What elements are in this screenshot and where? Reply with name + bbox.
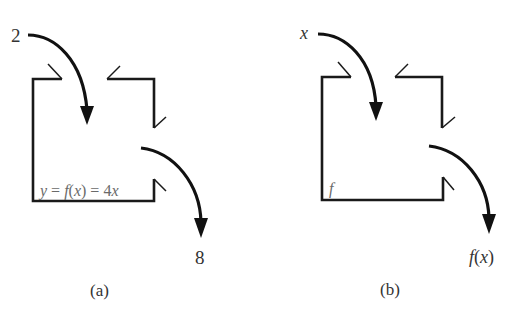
input-arrow-b bbox=[318, 34, 376, 106]
output-value-a: 8 bbox=[195, 247, 205, 268]
output-arrow-b bbox=[429, 146, 489, 218]
machine-box-a-notch-bottom-right bbox=[154, 179, 166, 191]
machine-box-a-right bbox=[107, 79, 154, 128]
output-arrow-b-head bbox=[482, 214, 496, 234]
machine-box-b-notch-top-right bbox=[395, 64, 408, 77]
caption-b: (b) bbox=[380, 280, 400, 299]
output-arrow-a-head bbox=[194, 218, 208, 238]
formula-eq1: = bbox=[47, 182, 64, 199]
output-rparen: ) bbox=[488, 247, 494, 268]
machine-formula-a: y = f(x) = 4x bbox=[38, 182, 119, 200]
machine-box-a-notch-top-left bbox=[48, 64, 62, 79]
machine-box-b-right bbox=[395, 77, 442, 128]
machine-box-a-notch-top-right bbox=[107, 66, 120, 79]
function-machine-diagram: 2 8 y = f(x) = 4x (a) x f(x) f (b) bbox=[0, 0, 519, 321]
input-value-a: 2 bbox=[11, 25, 21, 46]
machine-box-b-notch-right bbox=[442, 117, 455, 128]
formula-x: x bbox=[73, 182, 81, 199]
machine-box-b-notch-bottom-right bbox=[443, 177, 454, 190]
output-expression-b: f(x) bbox=[469, 247, 494, 268]
formula-x2: x bbox=[110, 182, 118, 199]
input-arrow-a-head bbox=[80, 106, 94, 125]
panel-b: x f(x) f (b) bbox=[299, 23, 496, 299]
machine-box-b-left bbox=[322, 77, 443, 200]
machine-box-b-notch-top-left bbox=[338, 62, 351, 77]
input-arrow-a bbox=[28, 35, 87, 110]
formula-eq2: = 4 bbox=[86, 182, 111, 199]
input-arrow-b-head bbox=[369, 102, 383, 121]
machine-box-a-notch-right bbox=[154, 117, 166, 128]
caption-a: (a) bbox=[90, 281, 109, 300]
output-arrow-a bbox=[141, 148, 201, 222]
input-variable-b: x bbox=[299, 23, 308, 43]
output-x: x bbox=[479, 247, 488, 267]
machine-name-b: f bbox=[329, 180, 336, 198]
panel-a: 2 8 y = f(x) = 4x (a) bbox=[11, 25, 208, 300]
